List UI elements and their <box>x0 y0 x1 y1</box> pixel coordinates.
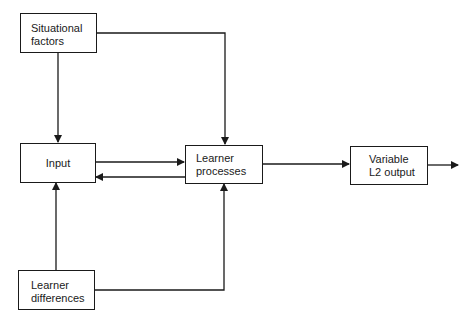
node-label: differences <box>31 292 94 305</box>
arrow-situational-to-processes <box>97 33 225 144</box>
node-learner-processes: Learner processes <box>185 145 263 184</box>
node-label: factors <box>31 35 96 48</box>
node-label: L2 output <box>369 166 427 179</box>
node-label: processes <box>196 165 262 178</box>
node-input: Input <box>20 143 96 183</box>
node-situational-factors: Situational factors <box>20 13 97 53</box>
node-variable-l2-output: Variable L2 output <box>350 146 428 185</box>
node-label: Variable <box>369 153 427 166</box>
node-learner-differences: Learner differences <box>18 270 95 310</box>
arrow-differences-to-processes <box>94 184 224 290</box>
node-label: Situational <box>31 22 96 35</box>
node-label: Learner <box>31 279 94 292</box>
node-label: Learner <box>196 152 262 165</box>
node-label: Input <box>46 157 70 170</box>
